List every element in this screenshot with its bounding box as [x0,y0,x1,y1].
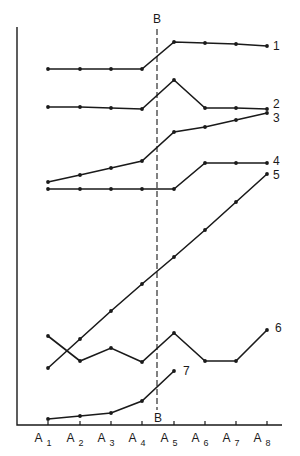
x-tick-label-sub: 4 [141,438,146,448]
x-tick-label: A2 [66,431,83,448]
data-point [46,334,50,338]
data-point [78,187,82,191]
series-label-1: 1 [273,39,280,53]
divider-label-bottom: B [154,411,162,425]
data-point [46,67,50,71]
series-label-4: 4 [273,154,280,168]
data-point [46,417,50,421]
x-tick-label: A3 [97,431,114,448]
data-point [265,172,269,176]
data-point [172,369,176,373]
data-point [234,118,238,122]
data-point [46,366,50,370]
x-tick-label-main: A [222,431,230,445]
x-tick-label: A4 [128,431,145,448]
series-label-2: 2 [273,97,280,111]
data-point [234,161,238,165]
data-point [265,44,269,48]
series-label-5: 5 [273,168,280,182]
data-point [109,166,113,170]
x-tick-label-main: A [34,431,42,445]
x-tick-label-sub: 2 [79,438,84,448]
data-point [234,106,238,110]
data-point [234,359,238,363]
data-point [109,309,113,313]
data-point [46,105,50,109]
data-point [78,173,82,177]
x-tick-label: A8 [253,431,270,448]
data-point [78,105,82,109]
data-point [140,282,144,286]
data-point [140,67,144,71]
data-point [172,331,176,335]
data-point [265,111,269,115]
x-tick-label: A5 [160,431,177,448]
data-point [172,78,176,82]
data-point [172,130,176,134]
series-label-7: 7 [183,364,190,378]
x-tick-label-main: A [97,431,105,445]
data-point [78,359,82,363]
data-point [46,187,50,191]
data-point [109,411,113,415]
series-label-3: 3 [273,111,280,125]
x-tick-label-main: A [66,431,74,445]
x-tick-label-sub: 1 [47,438,52,448]
data-point [78,67,82,71]
x-tick-label-main: A [128,431,136,445]
data-point [109,346,113,350]
divider-line-b: BB [153,12,162,425]
data-point [203,161,207,165]
series-label-6: 6 [275,321,282,335]
data-point [234,42,238,46]
data-point [109,67,113,71]
x-tick-label-sub: 6 [204,438,209,448]
data-point [172,187,176,191]
x-tick-label-main: A [160,431,168,445]
line-chart: A1A2A3A4A5A6A7A8 BB 1234567 [0,0,300,456]
data-point [203,41,207,45]
x-tick-label-main: A [191,431,199,445]
x-tick-label-sub: 3 [110,438,115,448]
axis-lines [17,27,282,425]
series-1-line [48,42,267,69]
x-tick-label: A7 [222,431,239,448]
data-point [140,107,144,111]
x-tick-label-sub: 8 [266,438,271,448]
data-point [203,125,207,129]
data-point [109,187,113,191]
data-point [140,360,144,364]
data-point [78,414,82,418]
data-point [140,399,144,403]
data-point [265,161,269,165]
divider-label-top: B [153,12,161,26]
x-tick-label-sub: 7 [235,438,240,448]
x-tick-label-sub: 5 [173,438,178,448]
data-point [140,159,144,163]
data-point [203,359,207,363]
x-tick-label: A1 [34,431,51,448]
data-point [109,106,113,110]
chart-axes: A1A2A3A4A5A6A7A8 [17,27,282,448]
data-point [203,106,207,110]
x-tick-label: A6 [191,431,208,448]
data-point [172,255,176,259]
data-point [234,200,238,204]
data-point [46,180,50,184]
data-point [78,337,82,341]
data-point [140,187,144,191]
x-tick-label-main: A [253,431,261,445]
data-point [172,40,176,44]
data-point [203,228,207,232]
data-point [265,328,269,332]
chart-labels: 1234567 [183,39,282,378]
data-point [265,107,269,111]
